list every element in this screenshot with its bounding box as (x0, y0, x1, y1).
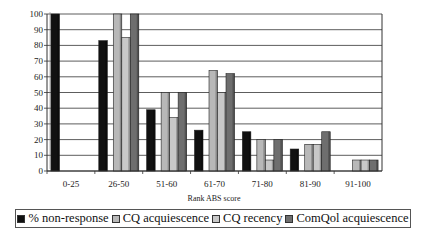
y-tick-label: 90 (34, 25, 44, 35)
y-tick-label: 10 (34, 150, 44, 160)
y-tick-label: 60 (34, 72, 44, 82)
y-tick-label: 30 (34, 119, 44, 129)
legend-item-non-response: % non-response (17, 211, 108, 226)
x-axis-label: Rank ABS score (188, 194, 241, 203)
swatch-icon (285, 215, 293, 223)
y-tick-label: 20 (34, 135, 44, 145)
x-tick-label: 81-90 (300, 179, 321, 189)
swatch-icon (212, 215, 220, 223)
y-tick-label: 70 (34, 56, 44, 66)
x-tick-label: 0-25 (63, 179, 80, 189)
legend: % non-response CQ acquiescence CQ recenc… (15, 209, 411, 228)
y-tick-label: 0 (39, 166, 44, 176)
x-tick-label: 26-50 (108, 179, 129, 189)
y-tick-label: 80 (34, 40, 44, 50)
y-tick-label: 50 (34, 88, 44, 98)
x-tick-label: 71-80 (252, 179, 273, 189)
x-tick-label: 51-60 (156, 179, 177, 189)
legend-item-comqol-acquiescence: ComQol acquiescence (285, 211, 408, 226)
swatch-icon (112, 215, 120, 223)
x-tick-label: 91-100 (345, 179, 371, 189)
y-tick-label: 40 (34, 103, 44, 113)
swatch-icon (17, 215, 25, 223)
legend-item-cq-recency: CQ recency (212, 211, 282, 226)
bar-chart: 01020304050607080901000-2526-5051-6061-7… (0, 0, 427, 241)
y-tick-label: 100 (30, 9, 44, 19)
legend-item-cq-acquiescence: CQ acquiescence (112, 211, 209, 226)
x-tick-label: 61-70 (204, 179, 225, 189)
